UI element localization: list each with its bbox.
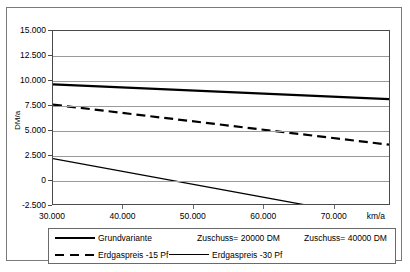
y-tick-label: 10.000 (6, 76, 46, 85)
x-axis-unit-label: km/a (367, 212, 385, 221)
x-tick-label: 50.000 (163, 212, 223, 221)
x-tick-mark (122, 205, 123, 209)
legend-label: Grundvariante (98, 233, 152, 243)
x-tick-label: 60.000 (233, 212, 293, 221)
x-tick-label: 30.000 (22, 212, 82, 221)
x-tick-label: 70.000 (304, 212, 364, 221)
gridline (53, 56, 389, 57)
chart-figure: DM/a 15.00012.50010.0007.5005.0002.5000-… (0, 0, 410, 272)
gridline (53, 81, 389, 82)
chart-area: DM/a 15.00012.50010.0007.5005.0002.5000-… (8, 10, 400, 222)
legend-entry: Zuschuss= 40000 DM (304, 229, 387, 246)
series-line (53, 105, 389, 145)
y-tick-label: 15.000 (6, 26, 46, 35)
x-tick-mark (334, 205, 335, 209)
gridline (53, 131, 389, 132)
legend-entry: Erdgaspreis -30 Pf (169, 246, 282, 263)
x-tick-label: 40.000 (92, 212, 152, 221)
legend-entry: Grundvariante (55, 229, 152, 246)
x-tick-mark (193, 205, 194, 209)
y-tick-label: 12.500 (6, 51, 46, 60)
legend-swatch-solid-thin-icon (169, 250, 209, 260)
legend-swatch-solid-thick-icon (55, 233, 95, 243)
plot-area (52, 30, 390, 205)
legend-entry: Zuschuss= 20000 DM (197, 229, 280, 246)
gridline (53, 156, 389, 157)
y-tick-label: -2.500 (6, 201, 46, 210)
legend-row-1: GrundvarianteZuschuss= 20000 DMZuschuss=… (49, 229, 395, 246)
y-axis-title: DM/a (12, 96, 24, 144)
legend-swatch-dashed-icon (55, 250, 95, 260)
gridline (53, 106, 389, 107)
series-line (53, 84, 389, 99)
legend-label: Zuschuss= 20000 DM (197, 233, 280, 243)
gridline (53, 181, 389, 182)
legend-label: Erdgaspreis -15 Pf (98, 250, 168, 260)
x-tick-mark (263, 205, 264, 209)
legend-entry: Erdgaspreis -15 Pf (55, 246, 168, 263)
legend-label: Erdgaspreis -30 Pf (212, 250, 282, 260)
y-tick-label: 2.500 (6, 151, 46, 160)
legend-label: Zuschuss= 40000 DM (304, 233, 387, 243)
y-tick-mark (48, 205, 52, 206)
chart-legend: GrundvarianteZuschuss= 20000 DMZuschuss=… (48, 228, 396, 264)
legend-row-2: Erdgaspreis -15 PfErdgaspreis -30 Pf (49, 246, 395, 263)
y-tick-label: 0 (6, 176, 46, 185)
